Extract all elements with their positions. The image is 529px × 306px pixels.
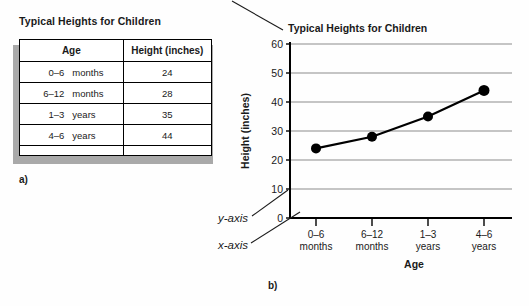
data-point: [311, 143, 321, 153]
leader-line-to-title: [232, 1, 283, 30]
x-tick-label-line1: 4–6: [476, 229, 493, 240]
y-axis-title: Height (inches): [239, 93, 251, 169]
x-tick-label-line1: 0–6: [308, 229, 325, 240]
x-axis-ticks: [316, 218, 484, 226]
leader-line-x-axis: [251, 212, 300, 243]
y-tick-label: 50: [271, 67, 283, 79]
figure-page: Typical Heights for Children Age Height …: [0, 0, 529, 306]
part-label-b: b): [268, 280, 277, 291]
annotation-y-axis: y-axis: [217, 212, 248, 224]
y-tick-label: 30: [271, 125, 283, 137]
x-tick-label-line1: 6–12: [361, 229, 384, 240]
data-point: [479, 85, 490, 96]
x-tick-label-line2: months: [356, 241, 389, 252]
x-tick-label-line2: months: [300, 241, 333, 252]
y-tick-label: 0: [277, 212, 283, 224]
y-tick-labels: 0 10 20 30 40 50 60: [271, 38, 283, 224]
y-tick-label: 20: [271, 154, 283, 166]
x-tick-label-line2: years: [416, 241, 440, 252]
y-tick-label: 40: [271, 96, 283, 108]
x-tick-label-line1: 1–3: [420, 229, 437, 240]
data-line-series: [316, 90, 484, 148]
data-point: [367, 132, 377, 142]
y-tick-label: 10: [271, 183, 283, 195]
annotation-x-axis: x-axis: [217, 239, 248, 251]
x-tick-label-line2: years: [472, 241, 496, 252]
y-tick-label: 60: [271, 38, 283, 50]
data-point: [423, 112, 433, 122]
x-tick-labels: 0–6 months 6–12 months 1–3 years 4–6 yea…: [300, 229, 497, 252]
line-chart: 0 10 20 30 40 50 60 Height (inches) 0–6 …: [0, 0, 529, 306]
x-axis-title: Age: [404, 258, 424, 270]
gridlines: [290, 44, 512, 189]
